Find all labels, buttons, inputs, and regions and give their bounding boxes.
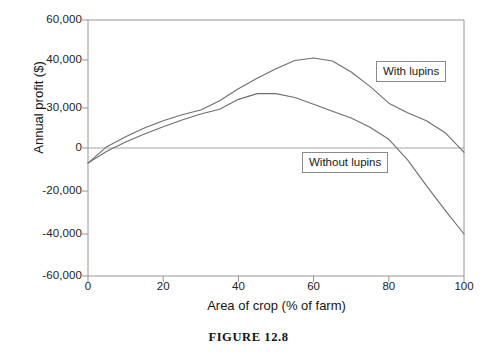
series-line-without-lupins (88, 94, 464, 234)
figure-caption: FIGURE 12.8 (0, 330, 497, 345)
series-label-with-lupins: With lupins (376, 61, 446, 82)
x-axis-title: Area of crop (% of farm) (88, 298, 465, 313)
y-axis-ticks (82, 20, 88, 276)
y-axis-title: Annual profit ($) (31, 0, 46, 218)
series-label-without-lupins: Without lupins (302, 152, 388, 173)
chart-plot-area: 60,000 40,000 30,000 0 -20,000 -40,000 -… (0, 0, 497, 300)
figure-container: 60,000 40,000 30,000 0 -20,000 -40,000 -… (0, 0, 497, 358)
